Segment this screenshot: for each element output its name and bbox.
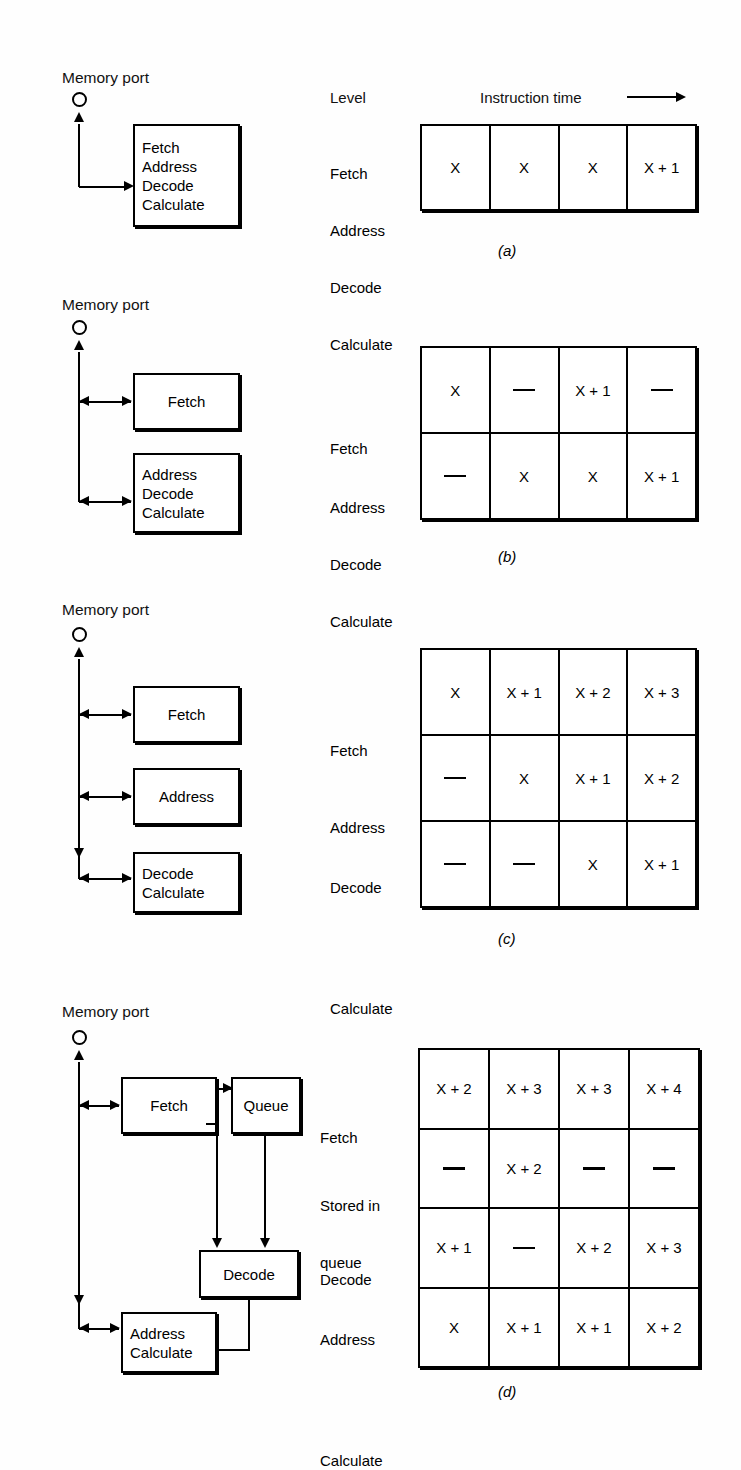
row-label-line: Stored in — [320, 1196, 380, 1215]
dash-mark — [583, 1167, 605, 1170]
row-label-line: Address — [330, 498, 393, 517]
box-line: Calculate — [135, 883, 212, 902]
table-row: X + 2 — [420, 1130, 698, 1210]
bus-vertical-lower-d — [78, 1302, 80, 1329]
table-cell: X — [420, 1289, 490, 1367]
table-cell: X — [560, 434, 629, 518]
table-cell: X + 2 — [420, 1050, 490, 1128]
table-cell: X + 2 — [628, 736, 695, 820]
box-line: Fetch — [161, 392, 213, 411]
table-cell — [491, 348, 560, 432]
fetch-bypass-arrow — [212, 1238, 222, 1248]
bus-arrow-right-addrcalc-d — [110, 1323, 120, 1333]
row-label-line: Calculate — [320, 1451, 383, 1470]
table-cell: X + 3 — [628, 650, 695, 734]
box-combined-stage-a: Fetch Address Decode Calculate — [133, 124, 240, 227]
table-cell: X — [491, 736, 560, 820]
dash-mark — [513, 389, 535, 392]
bus-arrow-up-b — [74, 340, 84, 350]
table-cell: X + 3 — [490, 1050, 560, 1128]
table-cell: X + 1 — [560, 348, 629, 432]
table-cell: X + 1 — [560, 736, 629, 820]
decode-feedback-vertical — [248, 1298, 250, 1350]
row-label-spacer — [320, 1387, 383, 1413]
bus-arrow-left-decode-c — [79, 873, 89, 883]
decode-feedback-horizontal — [212, 1349, 250, 1351]
table-cell: X — [422, 650, 491, 734]
row-label-line: Address — [330, 818, 385, 837]
box-line: Decode — [135, 484, 201, 503]
queue-to-decode-vertical — [264, 1134, 266, 1245]
timing-table-b: X X + 1 X X X + 1 — [420, 346, 697, 520]
dash-mark — [444, 475, 466, 478]
table-cell: X + 3 — [560, 1050, 630, 1128]
dash-mark — [513, 863, 535, 866]
dash-mark — [444, 863, 466, 866]
table-cell — [422, 434, 491, 518]
box-line: Queue — [236, 1096, 295, 1115]
box-decode-calculate-stage-c: Decode Calculate — [133, 852, 240, 913]
panel-a: Memory port Fetch Address Decode Calcula… — [0, 0, 741, 290]
table-cell: X + 1 — [560, 1289, 630, 1367]
dash-mark — [653, 1167, 675, 1170]
memory-port-circle-c — [72, 627, 87, 642]
bus-arrow-right-decode-c — [122, 873, 132, 883]
fetch-bypass-vertical — [216, 1123, 218, 1245]
table-cell: X — [422, 348, 491, 432]
table-row: X X + 1 — [422, 348, 695, 434]
bus-arrow-left-address-c — [79, 791, 89, 801]
row-label-spacer — [330, 935, 393, 961]
table-cell — [490, 1209, 560, 1287]
table-cell: X + 1 — [490, 1289, 560, 1367]
box-line: Fetch — [161, 705, 213, 724]
table-cell: X — [491, 434, 560, 518]
bus-arrow-up-d — [74, 1050, 84, 1060]
memory-port-label-a: Memory port — [62, 68, 149, 87]
bus-vertical-lower-c — [78, 856, 80, 879]
row-label-line: Decode — [330, 555, 393, 574]
panel-letter-c: (c) — [498, 930, 516, 947]
box-line: Calculate — [135, 503, 212, 522]
timing-table-d: X + 2 X + 3 X + 3 X + 4 X + 2 X + 1 X + … — [418, 1048, 700, 1368]
bus-arrow-right-fetch-c — [122, 709, 132, 719]
panel-d: Memory port Fetch Queue Decode Address C… — [0, 980, 741, 1465]
memory-port-label-d: Memory port — [62, 1002, 149, 1021]
timing-table-a: X X X X + 1 — [420, 124, 697, 211]
box-line: Decode — [216, 1265, 282, 1284]
memory-port-circle-b — [72, 320, 87, 335]
box-line: Address — [123, 1324, 192, 1343]
bus-arrow-up-a — [74, 112, 84, 122]
memory-port-label-b: Memory port — [62, 295, 149, 314]
table-row: X X X + 1 — [422, 434, 695, 518]
table-cell — [628, 348, 695, 432]
bus-vertical-c — [78, 659, 80, 856]
panel-letter-a: (a) — [498, 242, 516, 259]
bus-arrow-right-fetch-b — [122, 396, 132, 406]
row-label-line: Address — [330, 221, 393, 240]
table-row-label-d-3: Address Calculate — [320, 1292, 383, 1470]
box-line: Address — [135, 157, 204, 176]
table-cell: X + 2 — [560, 1209, 630, 1287]
bus-arrow-up-c — [74, 647, 84, 657]
table-row: X X X X + 1 — [422, 126, 695, 209]
bus-vertical-d — [78, 1062, 80, 1302]
table-row: X X + 1 X + 1 X + 2 — [420, 1289, 698, 1367]
table-cell: X + 2 — [630, 1289, 698, 1367]
table-cell: X + 4 — [630, 1050, 698, 1128]
bus-arrow-left-adc-b — [79, 496, 89, 506]
box-line: Decode — [135, 176, 201, 195]
panel-letter-b: (b) — [498, 548, 516, 565]
row-label-line: Fetch — [320, 1128, 358, 1147]
table-cell: X — [491, 126, 560, 209]
box-line: Fetch — [135, 138, 187, 157]
dash-mark — [444, 777, 466, 780]
table-cell: X + 3 — [630, 1209, 698, 1287]
panel-letter-d: (d) — [498, 1383, 516, 1400]
table-cell — [422, 736, 491, 820]
row-label-line: Decode — [330, 878, 393, 897]
instruction-time-arrow-shaft — [627, 96, 679, 98]
table-cell — [422, 822, 491, 906]
table-cell: X + 1 — [420, 1209, 490, 1287]
table-cell: X + 1 — [628, 434, 695, 518]
bus-arrow-right-fetch-d — [110, 1100, 120, 1110]
